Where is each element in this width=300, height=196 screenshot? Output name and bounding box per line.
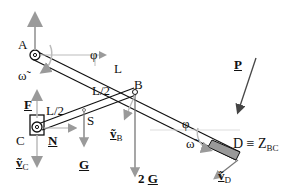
label-2G: 2 G	[138, 172, 158, 185]
diagram-graphics	[0, 0, 300, 196]
label-G: G	[79, 158, 89, 171]
label-S: S	[87, 114, 94, 127]
label-B: B	[134, 78, 143, 91]
label-phi-A: φ	[90, 48, 98, 61]
label-N: N	[48, 134, 57, 147]
label-C: C	[16, 134, 25, 147]
label-F: F	[24, 98, 32, 111]
point-S	[83, 109, 86, 112]
label-vD: ṽD	[218, 169, 231, 185]
label-P: P	[234, 58, 242, 71]
joint-C	[32, 122, 42, 132]
label-L-half-left: L/2	[46, 104, 64, 117]
label-vC: ṽC	[16, 156, 29, 172]
label-A: A	[18, 38, 27, 51]
label-omega-A: ω̃	[18, 69, 27, 82]
mechanism-diagram: A ω̃ φ L B L/2 L/2 F C N S G 2 G ṽB ṽC φ…	[0, 0, 300, 196]
label-D: D ≡ ZBC	[233, 137, 279, 153]
joint-A	[30, 50, 40, 60]
label-L: L	[114, 62, 122, 75]
label-L-half-top: L/2	[92, 84, 110, 97]
label-vB: ṽB	[110, 127, 123, 143]
label-phi-D: φ	[182, 117, 190, 130]
label-omega-D: ω̃	[186, 137, 195, 150]
